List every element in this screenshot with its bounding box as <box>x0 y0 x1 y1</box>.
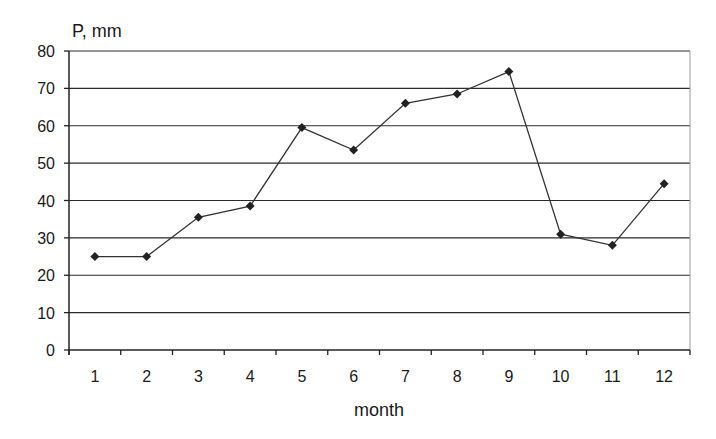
x-tick-label: 5 <box>297 368 306 385</box>
x-tick-label: 9 <box>504 368 513 385</box>
data-markers <box>90 67 668 261</box>
y-tick-label: 0 <box>46 342 55 359</box>
diamond-marker-icon <box>453 89 462 98</box>
diamond-marker-icon <box>246 202 255 211</box>
diamond-marker-icon <box>504 67 513 76</box>
y-tick-label: 40 <box>37 193 55 210</box>
y-tick-label: 60 <box>37 118 55 135</box>
y-axis-title: P, mm <box>72 21 122 41</box>
y-axis-ticks: 01020304050607080 <box>37 43 69 359</box>
x-tick-label: 2 <box>142 368 151 385</box>
axes <box>69 51 690 355</box>
x-axis-title: month <box>354 400 404 420</box>
y-tick-label: 70 <box>37 80 55 97</box>
x-tick-label: 11 <box>604 368 621 385</box>
diamond-marker-icon <box>297 123 306 132</box>
x-tick-label: 3 <box>194 368 203 385</box>
line-chart: 01020304050607080 123456789101112 P, mm … <box>0 0 716 439</box>
x-axis-ticks: 123456789101112 <box>69 350 690 385</box>
y-tick-label: 30 <box>37 230 55 247</box>
y-tick-label: 80 <box>37 43 55 60</box>
y-tick-label: 10 <box>37 305 55 322</box>
x-tick-label: 10 <box>552 368 570 385</box>
series-line <box>95 72 664 257</box>
x-tick-label: 1 <box>90 368 99 385</box>
x-tick-label: 7 <box>401 368 410 385</box>
x-tick-label: 8 <box>453 368 462 385</box>
diamond-marker-icon <box>90 252 99 261</box>
x-tick-label: 6 <box>349 368 358 385</box>
y-tick-label: 50 <box>37 155 55 172</box>
x-tick-label: 12 <box>655 368 673 385</box>
y-tick-label: 20 <box>37 267 55 284</box>
gridlines <box>69 51 690 313</box>
x-tick-label: 4 <box>246 368 255 385</box>
